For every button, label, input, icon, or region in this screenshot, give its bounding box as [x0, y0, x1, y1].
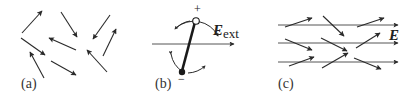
field-label-c: E [389, 27, 399, 44]
dipole-rod [182, 22, 195, 71]
dipole-arrow [51, 61, 76, 75]
external-field-label: Eext [213, 22, 239, 42]
dipole-arrow [354, 58, 381, 69]
dipole-arrow [322, 53, 348, 68]
dipole-arrow [103, 29, 116, 56]
panel-c-aligned-dipoles [278, 16, 398, 69]
minus-sign: − [178, 72, 185, 87]
dipole-arrow [321, 38, 347, 51]
dipole-arrow [21, 38, 45, 55]
plus-sign: + [194, 2, 201, 17]
dipole-arrow [30, 52, 44, 78]
panel-a-random-dipoles [21, 11, 116, 78]
panel-a-label: (a) [21, 76, 37, 92]
field-symbol: E [213, 22, 223, 38]
dipole-figure [0, 0, 418, 96]
dipole-arrow [49, 38, 76, 50]
dipole-arrow [22, 11, 42, 33]
dipole-arrow [93, 15, 110, 39]
field-subscript: ext [223, 26, 239, 41]
dipole-arrow [357, 18, 384, 27]
dipole-arrow [323, 16, 344, 36]
positive-charge-open-circle [193, 18, 200, 25]
panel-c-label: (c) [278, 76, 294, 92]
rotation-arc-lower-right [188, 66, 205, 73]
dipole-arrow [356, 33, 380, 48]
dipole-arrow [61, 12, 77, 37]
dipole-arrow [285, 18, 312, 27]
panel-b-label: (b) [155, 76, 171, 92]
dipole-arrow [285, 39, 312, 50]
